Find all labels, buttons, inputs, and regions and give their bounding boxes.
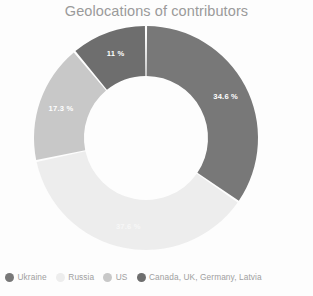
donut-chart-svg: 34.6 %37.6 %17.3 %11 % (0, 22, 313, 256)
legend-swatch-icon (137, 273, 146, 282)
legend-item-label: US (116, 272, 128, 282)
chart-figure: Geolocations of contributors 34.6 %37.6 … (0, 0, 313, 296)
page-title: Geolocations of contributors (0, 3, 313, 19)
slice-label-russia: 37.6 % (116, 222, 141, 231)
legend-swatch-icon (56, 273, 65, 282)
donut-slices (34, 26, 258, 250)
chart-legend: UkraineRussiaUSCanada, UK, Germany, Latv… (0, 266, 313, 288)
legend-swatch-icon (103, 273, 112, 282)
donut-slice-ukraine[interactable] (147, 26, 258, 201)
legend-item-russia[interactable]: Russia (56, 272, 94, 282)
slice-label-ukraine: 34.6 % (213, 92, 238, 101)
slice-label-canada-uk-germany-latvia: 11 % (107, 49, 125, 58)
slice-label-us: 17.3 % (49, 104, 74, 113)
legend-item-label: Canada, UK, Germany, Latvia (149, 272, 262, 282)
legend-item-label: Russia (68, 272, 94, 282)
donut-chart: 34.6 %37.6 %17.3 %11 % (0, 22, 313, 256)
legend-item-canada-uk-germany-latvia[interactable]: Canada, UK, Germany, Latvia (137, 272, 262, 282)
legend-item-ukraine[interactable]: Ukraine (5, 272, 47, 282)
legend-item-us[interactable]: US (103, 272, 127, 282)
legend-item-label: Ukraine (18, 272, 47, 282)
legend-swatch-icon (5, 273, 14, 282)
